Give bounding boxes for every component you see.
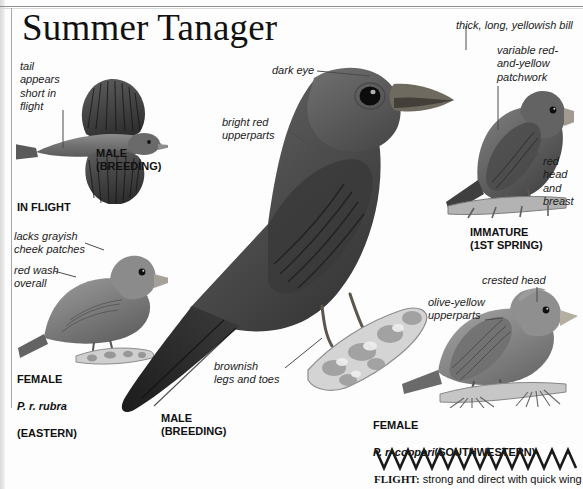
flight-text: strong and direct with quick wing xyxy=(420,473,582,485)
callout-olive-yellow-upperparts: olive-yellow upperparts xyxy=(428,296,485,323)
callout-dark-eye: dark eye xyxy=(272,64,314,77)
callout-red-head-and-breast: red head and breast xyxy=(543,155,574,209)
label-immature: IMMATURE (1ST SPRING) xyxy=(470,226,543,253)
callout-variable-patchwork: variable red- and-yellow patchwork xyxy=(497,44,558,84)
flight-description: FLIGHT: strong and direct with quick win… xyxy=(374,472,582,486)
female-eastern-range: (EASTERN) xyxy=(17,427,77,439)
callout-thick-long-yellowish-bill: thick, long, yellowish bill xyxy=(456,19,573,32)
callout-tail-appears-short: tail appears short in flight xyxy=(20,60,60,114)
callout-lacks-grayish-cheek: lacks grayish cheek patches xyxy=(14,230,85,257)
female-sw-common: FEMALE xyxy=(373,419,418,431)
callout-bright-red-upperparts: bright red upperparts xyxy=(222,116,275,143)
female-eastern-scientific: P. r. rubra xyxy=(17,400,67,412)
label-in-flight: IN FLIGHT xyxy=(17,201,71,214)
label-main-male: MALE (BREEDING) xyxy=(161,412,226,439)
callout-red-wash-overall: red wash overall xyxy=(14,264,59,291)
female-eastern-common: FEMALE xyxy=(17,373,62,385)
callout-brownish-legs-and-toes: brownish legs and toes xyxy=(214,360,279,387)
flight-label: FLIGHT: xyxy=(374,473,420,485)
flight-path-diagram xyxy=(374,446,579,472)
label-flight-male: MALE (BREEDING) xyxy=(96,147,161,174)
field-guide-page: Summer Tanager xyxy=(0,0,583,489)
label-female-eastern: FEMALE P. r. rubra (EASTERN) xyxy=(17,360,77,440)
callout-crested-head: crested head xyxy=(482,274,546,287)
